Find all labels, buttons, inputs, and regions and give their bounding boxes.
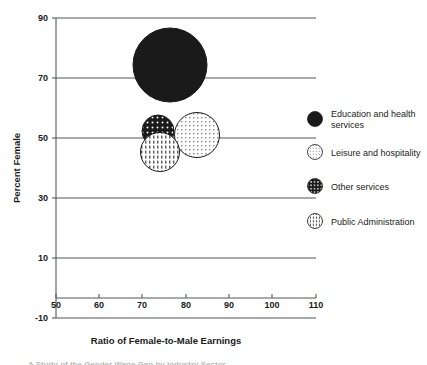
- legend-label-public-administration: Public Administration: [331, 217, 415, 227]
- y-tick-label-50: 50: [38, 133, 48, 143]
- legend-label-other-services: Other services: [331, 182, 390, 192]
- legend-label-leisure: Leisure and hospitality: [331, 148, 421, 158]
- legend: Education and health services Leisure an…: [308, 109, 422, 229]
- legend-label-education-line2: services: [331, 120, 365, 130]
- dashed-fill-circle-icon: [308, 214, 323, 229]
- bubble-chart: 90 70 50 30 10 -10 50 60 70 80 90 100 11…: [0, 0, 427, 365]
- y-tick-label-30: 30: [38, 193, 48, 203]
- bubble-education-and-health-services[interactable]: [133, 28, 207, 102]
- footer-partial-caption: A Study of the Gender Wage Gap by Indust…: [28, 360, 358, 365]
- y-tick-label-10: 10: [38, 253, 48, 263]
- legend-item-public-administration[interactable]: Public Administration: [308, 214, 415, 229]
- black-dotted-circle-icon: [308, 179, 323, 194]
- x-tick-label-110: 110: [309, 300, 324, 310]
- legend-item-other-services[interactable]: Other services: [308, 179, 390, 194]
- y-tick-label-90: 90: [38, 13, 48, 23]
- y-tick-label-70: 70: [38, 73, 48, 83]
- x-tick-label-70: 70: [137, 300, 147, 310]
- x-tick-label-80: 80: [181, 300, 191, 310]
- y-tick-label-minus10: -10: [35, 313, 48, 323]
- chart-canvas: 90 70 50 30 10 -10 50 60 70 80 90 100 11…: [0, 0, 427, 365]
- x-tick-label-50: 50: [51, 300, 61, 310]
- x-tick-labels: 50 60 70 80 90 100 110: [51, 300, 323, 310]
- x-tick-label-100: 100: [264, 300, 279, 310]
- y-tick-labels: 90 70 50 30 10 -10: [35, 13, 48, 323]
- y-axis-title: Percent Female: [11, 133, 22, 203]
- x-axis-title: Ratio of Female-to-Male Earnings: [91, 335, 241, 346]
- x-tick-label-90: 90: [224, 300, 234, 310]
- legend-item-leisure-and-hospitality[interactable]: Leisure and hospitality: [308, 145, 422, 160]
- legend-item-education-and-health-services[interactable]: Education and health services: [308, 109, 416, 130]
- bubbles: [133, 28, 220, 172]
- light-dotted-circle-icon: [308, 145, 323, 160]
- legend-label-education-line1: Education and health: [331, 109, 416, 119]
- x-tick-label-60: 60: [94, 300, 104, 310]
- bubble-public-administration[interactable]: [141, 133, 180, 172]
- solid-black-circle-icon: [308, 112, 323, 127]
- bubble-leisure-and-hospitality[interactable]: [175, 113, 220, 158]
